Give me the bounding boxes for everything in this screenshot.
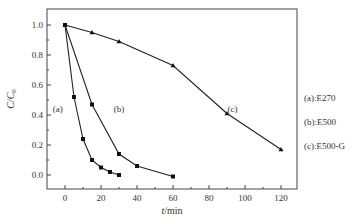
triangle-marker: [279, 147, 284, 151]
legend-entry: (b):E500: [304, 117, 336, 127]
y-tick-label: 0.6: [32, 80, 44, 90]
y-tick-label: 0.8: [32, 50, 44, 60]
y-tick-label: 0.0: [32, 170, 44, 180]
square-marker: [99, 166, 103, 170]
x-tick-label: 20: [97, 193, 107, 203]
x-tick-label: 120: [274, 193, 288, 203]
x-axis-ticks: 020406080100120: [63, 185, 289, 203]
legend-entry: (a):E270: [304, 93, 336, 103]
series-group: [63, 22, 284, 178]
x-tick-label: 80: [205, 193, 215, 203]
x-tick-label: 60: [169, 193, 179, 203]
y-tick-label: 0.2: [32, 140, 43, 150]
y-axis-ticks: 0.00.20.40.60.81.0: [32, 20, 51, 180]
y-tick-label: 0.4: [32, 110, 44, 120]
legend-entry: (c):E500-G: [304, 141, 345, 151]
square-marker: [135, 164, 139, 168]
square-marker: [81, 137, 85, 141]
series-tag-label: (a): [53, 104, 63, 114]
square-marker: [117, 152, 121, 156]
legend: (a):E270(b):E500(c):E500-G: [304, 93, 345, 151]
square-marker: [117, 173, 121, 177]
y-tick-label: 1.0: [32, 20, 44, 30]
line-chart: 0.00.20.40.60.81.0 020406080100120 (a)(b…: [0, 0, 360, 224]
x-tick-label: 0: [63, 193, 68, 203]
y-axis-title: C/C0: [5, 89, 18, 109]
x-axis-title: t/min: [161, 205, 182, 216]
series-tag-label: (b): [114, 104, 125, 114]
plot-frame: [47, 9, 297, 189]
square-marker: [108, 170, 112, 174]
series-tag-label: (c): [227, 104, 237, 114]
series-line: [65, 25, 281, 150]
x-tick-label: 40: [133, 193, 143, 203]
x-tick-label: 100: [238, 193, 252, 203]
square-marker: [72, 95, 76, 99]
square-marker: [90, 158, 94, 162]
square-marker: [90, 103, 94, 107]
series-tags: (a)(b)(c): [53, 104, 238, 114]
square-marker: [171, 175, 175, 179]
